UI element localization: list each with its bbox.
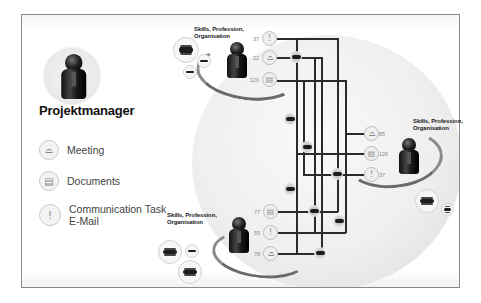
connection-line [337,38,339,212]
role-label: Projektmanager [39,103,134,118]
handshake-icon[interactable] [314,247,326,259]
connection-line [321,57,323,254]
handshake-icon[interactable] [284,113,296,125]
legend-label-line1: Communication Task [69,203,166,215]
handshake-icon[interactable] [308,205,320,217]
communication-icon[interactable]: ! [263,225,278,240]
participant-right-person-icon [398,138,420,176]
participant-top-count-communication: 37 [245,36,259,42]
participant-bottom-caption: Skills, Profession,Organisation [167,212,217,226]
legend-label: Meeting [67,144,104,156]
handshake-icon [185,244,199,258]
participant-bottom-count-communication: 55 [246,230,260,236]
participant-top-person-icon [226,42,248,80]
handshake-icon [197,54,211,68]
connection-line [277,38,338,40]
meeting-icon[interactable]: ⌓ [262,50,277,65]
meeting-icon: ⌓ [39,140,59,160]
legend-label-line2: E-Mail [69,215,166,227]
participant-right-count-communication: 37 [379,172,393,178]
connection-line [345,80,347,233]
participant-top-count-documents: 120 [245,77,259,83]
participant-bottom-count-meeting: 78 [246,251,260,257]
meeting-icon[interactable]: ⌓ [263,246,278,261]
legend-item-communication: ! Communication Task E-Mail [39,203,166,227]
handshake-icon[interactable] [290,51,302,63]
participant-right-caption: Skills, Profession,Organisation [413,118,463,132]
connection-line [296,38,298,254]
documents-icon[interactable]: ▤ [364,146,379,161]
connection-line [278,232,346,234]
communication-icon[interactable]: ! [262,31,277,46]
connection-line [303,80,305,175]
documents-icon[interactable]: ▤ [263,204,278,219]
handshake-icon[interactable] [284,183,296,195]
legend-label: Communication Task E-Mail [69,203,166,227]
handshake-icon [441,203,454,216]
communication-icon[interactable]: ! [364,167,379,182]
projektmanager-person-icon [60,54,88,102]
handshake-icon [415,189,439,213]
connection-line [346,133,364,135]
meeting-icon[interactable]: ⌓ [364,126,379,141]
participant-right-count-meeting: 85 [379,131,393,137]
participant-bottom-count-documents: 77 [246,209,260,215]
participant-top-count-meeting: 22 [245,55,259,61]
documents-icon[interactable]: ▤ [262,72,277,87]
communication-icon: ! [39,204,61,226]
participant-right-count-documents: 126 [379,151,393,157]
handshake-icon[interactable] [301,141,313,153]
connection-line [296,153,364,155]
participant-bottom-person-icon [228,217,250,255]
handshake-icon[interactable] [331,168,343,180]
legend-item-meeting: ⌓ Meeting [39,140,104,160]
participant-top-caption: Skills, Profession,Organisation [194,26,244,40]
documents-icon: ▤ [39,171,59,191]
handshake-icon[interactable] [333,215,345,227]
handshake-icon [158,240,182,264]
handshake-icon [178,260,202,284]
handshake-icon [183,65,197,79]
handshake-icon [173,37,199,63]
legend-label: Documents [67,175,120,187]
legend-item-documents: ▤ Documents [39,171,120,191]
